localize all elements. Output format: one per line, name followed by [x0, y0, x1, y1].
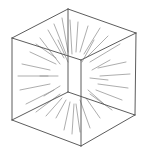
background [0, 0, 145, 162]
cube-vector-field-diagram [0, 0, 145, 162]
